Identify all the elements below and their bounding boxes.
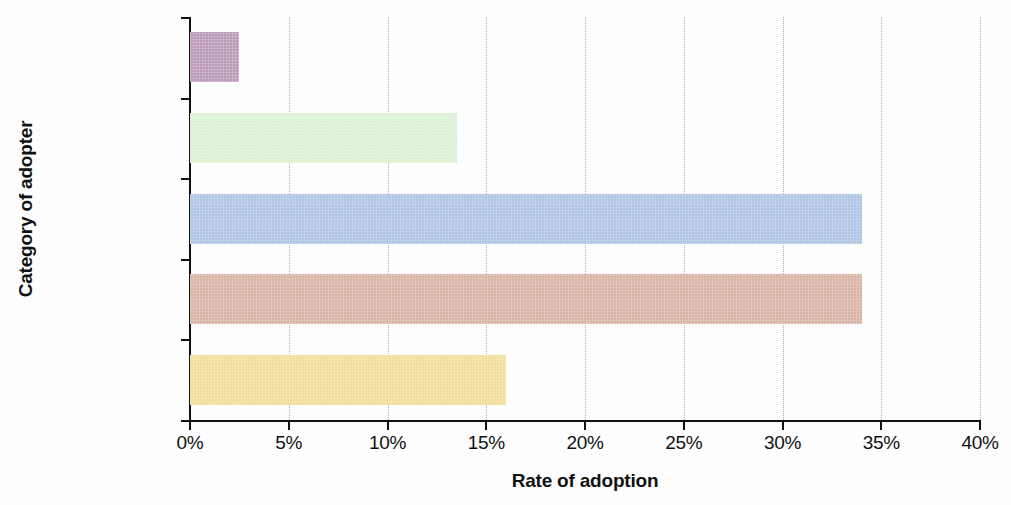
x-axis-tick bbox=[387, 421, 389, 430]
plot-area bbox=[190, 17, 980, 420]
bar-late-majority bbox=[190, 274, 862, 324]
x-axis-tick bbox=[485, 421, 487, 430]
bar-early-adopters bbox=[190, 113, 457, 163]
gridline-35% bbox=[881, 17, 882, 420]
x-axis-label-35%: 35% bbox=[841, 432, 921, 454]
gridline-40% bbox=[980, 17, 981, 420]
x-axis-label-15%: 15% bbox=[446, 432, 526, 454]
x-axis-tick bbox=[288, 421, 290, 430]
x-axis-label-40%: 40% bbox=[940, 432, 1011, 454]
y-axis-tick bbox=[181, 17, 190, 19]
x-axis-label-30%: 30% bbox=[743, 432, 823, 454]
x-axis-label-10%: 10% bbox=[348, 432, 428, 454]
y-axis-title: Category of adopter bbox=[15, 79, 37, 339]
y-axis-tick bbox=[181, 98, 190, 100]
x-axis-label-25%: 25% bbox=[644, 432, 724, 454]
x-axis-tick bbox=[782, 421, 784, 430]
y-axis-tick bbox=[181, 339, 190, 341]
x-axis-title: Rate of adoption bbox=[190, 470, 980, 492]
y-axis-tick bbox=[181, 259, 190, 261]
y-axis-tick bbox=[181, 178, 190, 180]
bar-innovators bbox=[190, 32, 239, 82]
x-axis-label-5%: 5% bbox=[249, 432, 329, 454]
bar-early-majority bbox=[190, 194, 862, 244]
x-axis-tick bbox=[979, 421, 981, 430]
x-axis-label-20%: 20% bbox=[545, 432, 625, 454]
x-axis-tick bbox=[189, 421, 191, 430]
x-axis-tick bbox=[584, 421, 586, 430]
x-axis-tick bbox=[683, 421, 685, 430]
x-axis-label-0%: 0% bbox=[150, 432, 230, 454]
bar-laggards bbox=[190, 355, 506, 405]
adoption-rate-bar-chart: Category of adopter InnovatorsEarly adop… bbox=[0, 0, 1011, 505]
x-axis-tick bbox=[880, 421, 882, 430]
